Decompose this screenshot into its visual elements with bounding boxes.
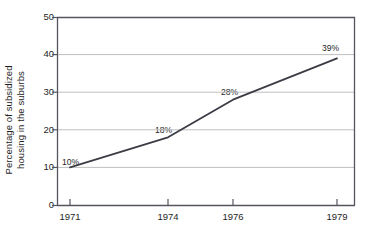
chart-figure: Percentage of subsidized housing in the … [0,0,366,240]
y-ticks-group [52,18,57,206]
x-ticks-group [70,199,337,205]
chart-canvas [0,0,366,240]
gridlines-group [57,55,355,168]
axes-group [57,17,355,206]
data-line-series [70,58,337,167]
